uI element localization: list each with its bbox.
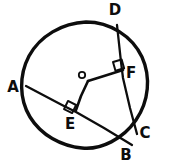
center-point-marker (79, 72, 85, 78)
point-label-f: F (126, 64, 136, 82)
segment-oe (76, 81, 88, 110)
geometry-figure: A B C D E F o (0, 0, 171, 164)
point-label-b: B (120, 146, 131, 164)
chord-ab-group (26, 86, 132, 145)
chord-ab (26, 86, 132, 145)
point-label-c: C (139, 124, 150, 142)
point-label-d: D (109, 1, 121, 19)
main-circle (22, 22, 148, 148)
main-circle-group (22, 22, 148, 148)
right-angle-marker-f (113, 60, 124, 71)
right-angle-square-f (113, 60, 124, 71)
segment-oe-group (76, 81, 88, 110)
point-label-a: A (7, 78, 19, 96)
point-label-e: E (65, 115, 75, 133)
segment-of (88, 70, 123, 81)
geometry-diagram-canvas: A B C D E F o (0, 0, 171, 164)
segment-of-group (88, 70, 123, 81)
